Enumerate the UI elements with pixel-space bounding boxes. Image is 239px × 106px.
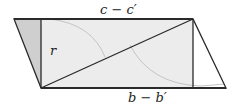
geometry-diagram: c − c′ b − b′ r [0, 0, 239, 106]
label-top: c − c′ [100, 2, 137, 17]
label-side: r [50, 43, 57, 58]
label-bottom: b − b′ [128, 90, 167, 105]
